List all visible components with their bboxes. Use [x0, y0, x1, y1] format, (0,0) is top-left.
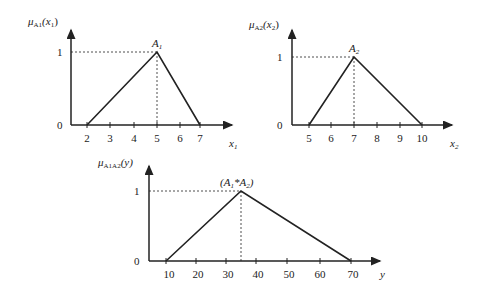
x-tick: 3 — [107, 132, 113, 144]
x-axis-label: x1 — [228, 137, 237, 151]
x-tick: 60 — [315, 268, 327, 280]
x-tick: 8 — [374, 132, 380, 144]
y-tick-0: 0 — [134, 255, 140, 267]
y-tick-0: 0 — [57, 119, 63, 131]
x-tick: 20 — [193, 268, 205, 280]
peak-label: (A1*A2) — [220, 176, 254, 190]
x-tick: 70 — [348, 268, 360, 280]
chart-a1: 0 1 2 3 4 5 6 7 μA1(x1) x1 A1 — [27, 15, 237, 151]
y-axis-label: μA1(x1) — [27, 15, 58, 29]
membership-triangle — [166, 191, 351, 261]
x-tick: 6 — [328, 132, 334, 144]
chart-a1a2: 0 1 10 20 30 40 50 60 70 μA1A2(y) y (A1*… — [97, 156, 385, 280]
x-tick: 5 — [154, 132, 160, 144]
x-axis-label: x2 — [449, 137, 459, 151]
y-tick-1: 1 — [277, 51, 283, 63]
x-axis-label: y — [379, 268, 385, 280]
x-tick: 7 — [197, 132, 203, 144]
x-tick: 5 — [306, 132, 312, 144]
fuzzy-membership-diagram: 0 1 2 3 4 5 6 7 μA1(x1) x1 A1 0 1 — [0, 0, 480, 298]
membership-triangle — [309, 57, 422, 125]
peak-label: A1 — [151, 37, 162, 51]
x-tick: 30 — [223, 268, 235, 280]
x-tick: 2 — [84, 132, 90, 144]
x-tick: 6 — [177, 132, 183, 144]
y-axis-label: μA2(x2) — [248, 18, 279, 32]
x-tick: 7 — [351, 132, 357, 144]
membership-triangle — [87, 52, 200, 125]
y-axis-label: μA1A2(y) — [97, 156, 133, 170]
x-tick: 4 — [131, 132, 137, 144]
x-tick: 40 — [253, 268, 265, 280]
y-tick-1: 1 — [57, 46, 63, 58]
chart-a2: 0 1 5 6 7 8 9 10 μA2(x2) x2 A2 — [248, 18, 459, 151]
y-tick-1: 1 — [134, 185, 140, 197]
x-tick: 50 — [284, 268, 296, 280]
x-tick: 10 — [164, 268, 176, 280]
x-tick: 10 — [417, 132, 429, 144]
y-tick-0: 0 — [277, 119, 283, 131]
peak-label: A2 — [348, 42, 360, 56]
x-tick: 9 — [397, 132, 403, 144]
